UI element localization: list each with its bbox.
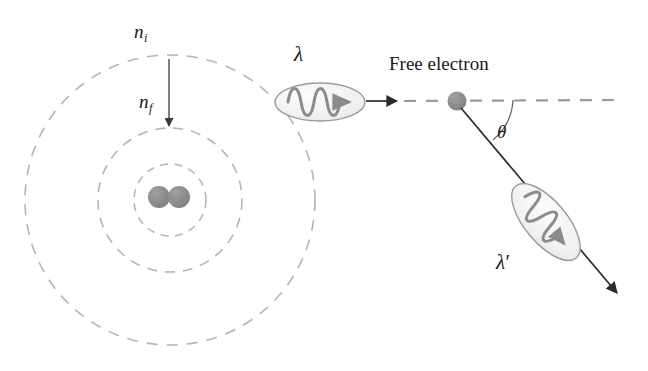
label-n-initial-subscript: i [144, 31, 148, 45]
free-electron-dot [448, 92, 467, 111]
label-theta: θ [497, 122, 506, 141]
label-n-initial: ni [134, 22, 147, 44]
incident-photon-group [275, 83, 365, 121]
incident-direction-axis [404, 100, 618, 101]
compton-scattering-diagram: ni nf λ λ′ θ Free electron [0, 0, 648, 371]
label-n-initial-base: n [134, 21, 144, 42]
label-lambda-scattered-prime: ′ [505, 250, 510, 274]
nucleus-particle-left [148, 186, 170, 208]
nucleus-group [148, 186, 190, 208]
label-lambda-incident: λ [294, 44, 303, 65]
scattered-photon-envelope [500, 172, 593, 271]
label-lambda-scattered: λ′ [496, 252, 510, 273]
scattered-photon-group [500, 172, 593, 271]
nucleus-particle-right [168, 186, 190, 208]
label-free-electron: Free electron [389, 54, 489, 73]
label-lambda-scattered-base: λ [496, 250, 505, 274]
label-n-final-base: n [139, 91, 149, 112]
label-n-final: nf [139, 92, 152, 114]
label-n-final-subscript: f [149, 101, 153, 115]
diagram-canvas [0, 0, 648, 371]
